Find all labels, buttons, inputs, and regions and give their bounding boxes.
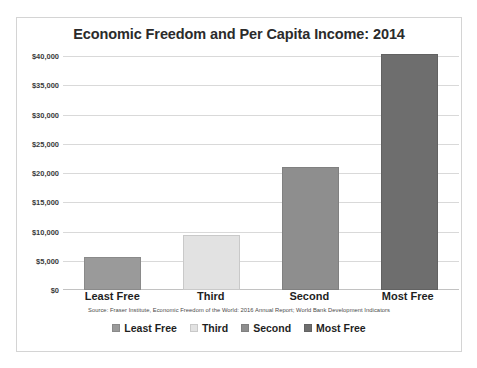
chart-card: Economic Freedom and Per Capita Income: … <box>16 17 462 352</box>
legend-item-third[interactable]: Third <box>190 322 228 334</box>
bars-layer <box>63 56 459 290</box>
chart-legend: Least FreeThirdSecondMost Free <box>17 322 461 334</box>
plot-area <box>63 56 459 290</box>
legend-item-least-free[interactable]: Least Free <box>112 322 177 334</box>
plot-wrapper: $40,000$35,000$30,000$25,000$20,000$15,0… <box>17 56 463 290</box>
x-axis-label-second: Second <box>260 290 359 302</box>
chart-title: Economic Freedom and Per Capita Income: … <box>17 26 461 42</box>
y-axis-tick-label: $20,000 <box>32 169 59 178</box>
legend-label: Most Free <box>316 322 366 334</box>
y-axis-tick-label: $35,000 <box>32 81 59 90</box>
legend-swatch-icon <box>190 324 198 332</box>
y-axis-tick-label: $40,000 <box>32 52 59 61</box>
legend-swatch-icon <box>241 324 249 332</box>
bar-second[interactable] <box>282 167 339 290</box>
legend-swatch-icon <box>112 324 120 332</box>
y-axis-tick-label: $30,000 <box>32 110 59 119</box>
legend-label: Second <box>253 322 291 334</box>
y-axis-tick-label: $15,000 <box>32 198 59 207</box>
bar-slot <box>360 56 459 290</box>
y-axis-tick-label: $5,000 <box>36 256 59 265</box>
bar-most-free[interactable] <box>381 54 438 290</box>
bar-slot <box>63 56 162 290</box>
legend-swatch-icon <box>304 324 312 332</box>
source-note: Source: Fraser Institute, Economic Freed… <box>17 307 461 313</box>
bar-slot <box>162 56 261 290</box>
x-axis-label-third: Third <box>162 290 261 302</box>
bar-slot <box>261 56 360 290</box>
legend-item-most-free[interactable]: Most Free <box>304 322 366 334</box>
x-axis-label-most-free: Most Free <box>359 290 458 302</box>
x-axis: Least FreeThirdSecondMost Free <box>63 290 457 302</box>
bar-third[interactable] <box>183 235 240 290</box>
legend-item-second[interactable]: Second <box>241 322 291 334</box>
legend-label: Least Free <box>124 322 177 334</box>
x-axis-label-least-free: Least Free <box>63 290 162 302</box>
y-axis-tick-label: $0 <box>51 286 59 295</box>
y-axis: $40,000$35,000$30,000$25,000$20,000$15,0… <box>17 56 63 290</box>
bar-least-free[interactable] <box>84 257 141 290</box>
y-axis-tick-label: $10,000 <box>32 227 59 236</box>
legend-label: Third <box>202 322 228 334</box>
y-axis-tick-label: $25,000 <box>32 139 59 148</box>
